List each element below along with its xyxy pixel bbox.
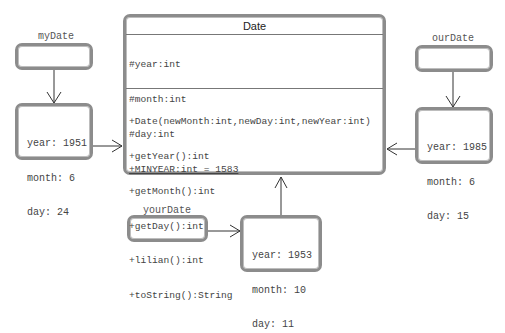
method-getmonth: +getMonth():int xyxy=(129,186,371,198)
object-box-ourdate: year: 1985 month: 6 day: 15 xyxy=(415,107,493,164)
method-constructor: +Date(newMonth:int,newDay:int,newYear:in… xyxy=(129,116,371,128)
attribute-year: #year:int xyxy=(129,59,238,71)
field-day: day: 24 xyxy=(27,207,87,219)
field-month: month: 6 xyxy=(27,173,87,185)
method-getyear: +getYear():int xyxy=(129,151,371,163)
class-attributes-divider xyxy=(126,88,383,89)
object-box-mydate: year: 1951 month: 6 day: 24 xyxy=(15,103,93,160)
field-day: day: 15 xyxy=(427,211,487,223)
method-tostring: +toString():String xyxy=(129,290,371,302)
ref-box-ourdate xyxy=(415,45,493,72)
method-lilian: +lilian():int xyxy=(129,255,371,267)
field-year: year: 1951 xyxy=(27,138,87,150)
method-list: +Date(newMonth:int,newDay:int,newYear:in… xyxy=(129,93,371,325)
method-getday: +getDay():int xyxy=(129,221,371,233)
ref-box-mydate xyxy=(15,43,93,70)
ref-label-mydate: myDate xyxy=(38,31,74,42)
uml-class-date: Date #year:int #month:int #day:int +MINY… xyxy=(123,14,386,175)
field-year: year: 1985 xyxy=(427,142,487,154)
class-header-divider xyxy=(126,34,383,35)
field-month: month: 6 xyxy=(427,177,487,189)
ref-label-ourdate: ourDate xyxy=(432,33,474,44)
class-name: Date xyxy=(126,20,383,32)
